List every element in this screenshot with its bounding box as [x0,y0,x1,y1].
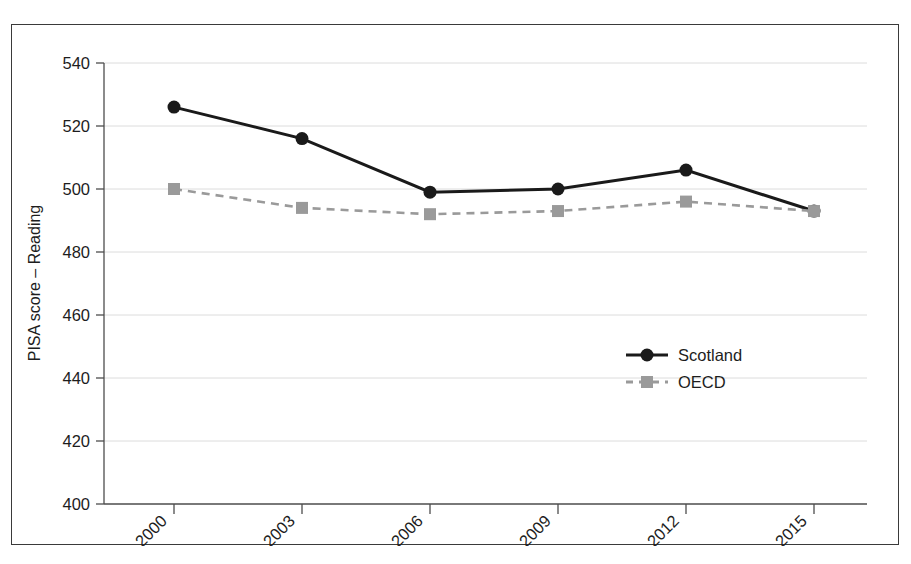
pisa-reading-line-chart: 540 520 500 480 460 440 420 400 PISA sco… [12,25,900,546]
chart-canvas: 540 520 500 480 460 440 420 400 PISA sco… [12,25,900,546]
data-point-oecd-2009 [552,205,564,217]
legend-marker-scotland-circle-icon [641,349,654,362]
y-tick-label-540: 540 [62,54,90,72]
series-line-scotland [174,107,814,211]
chart-legend: Scotland OECD [626,346,742,391]
y-tick-label-520: 520 [62,117,90,135]
data-point-oecd-2006 [424,208,436,220]
y-tick-label-460: 460 [62,306,90,324]
data-point-oecd-2003 [296,202,308,214]
x-tick-label-2012: 2012 [643,511,682,546]
y-axis-title: PISA score – Reading [26,205,43,362]
data-point-scotland-2000 [168,101,181,114]
legend-marker-oecd-square-icon [641,376,653,388]
x-axis-tick-labels: 2000 2003 2006 2009 2012 2015 [131,511,810,546]
data-point-oecd-2012 [680,196,692,208]
y-tick-label-480: 480 [62,243,90,261]
data-point-oecd-2000 [168,183,180,195]
data-point-scotland-2006 [424,186,437,199]
x-tick-label-2000: 2000 [131,511,170,546]
axes-lines [104,63,867,504]
y-axis-tick-labels: 540 520 500 480 460 440 420 400 [62,54,90,513]
y-tick-label-500: 500 [62,180,90,198]
data-point-scotland-2012 [680,164,693,177]
figure-border-frame: 540 520 500 480 460 440 420 400 PISA sco… [11,24,899,545]
y-tick-label-440: 440 [62,369,90,387]
legend-label-scotland: Scotland [678,346,742,364]
x-tick-label-2006: 2006 [387,511,426,546]
data-point-oecd-2015 [808,205,820,217]
y-axis-ticks [96,63,104,504]
gridlines [104,63,867,441]
data-point-scotland-2009 [552,183,565,196]
series-line-oecd [174,189,814,214]
legend-label-oecd: OECD [678,373,726,391]
x-axis-ticks [174,504,814,514]
x-tick-label-2009: 2009 [515,511,554,546]
y-tick-label-420: 420 [62,432,90,450]
data-series-layer [168,101,821,221]
data-point-scotland-2003 [296,132,309,145]
y-tick-label-400: 400 [62,495,90,513]
x-tick-label-2003: 2003 [259,511,298,546]
x-tick-label-2015: 2015 [771,511,810,546]
